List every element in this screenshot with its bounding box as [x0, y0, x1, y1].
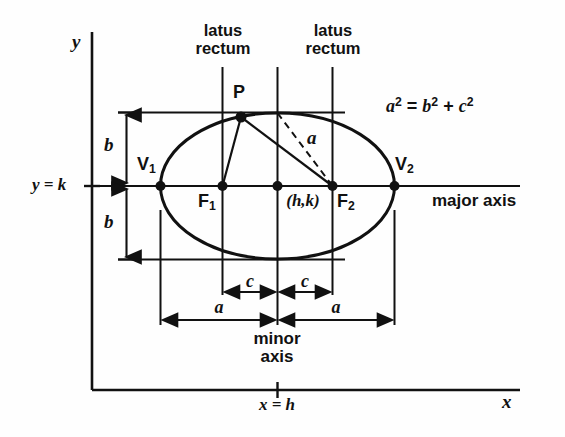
focal-radius-p-f2	[241, 117, 333, 186]
x-equals-h-text: x = h	[259, 395, 295, 414]
vertex-1-point	[156, 181, 166, 191]
vertex-2-label: V2	[395, 155, 414, 177]
focus-2-subscript: 2	[348, 199, 355, 213]
focus-1-letter: F	[198, 191, 209, 211]
center-point	[273, 181, 283, 191]
focal-distance-left-label: c	[246, 272, 254, 291]
equation-a: a	[386, 96, 395, 116]
latus-rectum-left-line1: latus	[195, 22, 250, 40]
vertex-1-subscript: 1	[149, 162, 156, 176]
radius-a-label: a	[307, 128, 317, 149]
diagram-canvas	[0, 0, 565, 437]
semi-major-right-label: a	[332, 298, 341, 317]
equation-b: b	[422, 96, 431, 116]
focus-1-label: F1	[198, 192, 216, 214]
y-axis-label: y	[72, 32, 80, 53]
semi-minor-top-label: b	[104, 135, 114, 156]
ellipse-relation-equation: a2=b2+c2	[386, 96, 473, 116]
equation-equals: =	[407, 96, 418, 116]
vertex-2-subscript: 2	[407, 162, 414, 176]
equation-a-exponent: 2	[395, 95, 402, 109]
point-p-label: P	[233, 83, 245, 102]
point-p-marker	[236, 112, 247, 123]
y-equals-k-text: y = k	[32, 175, 66, 194]
focal-distance-right-label: c	[301, 272, 309, 291]
latus-rectum-left-line2: rectum	[195, 40, 250, 58]
center-label: (h,k)	[286, 192, 320, 210]
minor-axis-line2: axis	[253, 348, 300, 366]
focus-2-letter: F	[337, 191, 348, 211]
y-equals-k-label: y = k	[32, 176, 66, 194]
focus-2-point	[328, 181, 338, 191]
latus-rectum-label-right: latus rectum	[305, 22, 360, 58]
vertex-2-letter: V	[395, 154, 407, 174]
equation-plus: +	[443, 96, 454, 116]
ellipse-diagram-figure: y x y = k x = h latus rectum latus rectu…	[0, 0, 565, 437]
vertex-1-letter: V	[137, 154, 149, 174]
equation-c: c	[459, 96, 467, 116]
semi-minor-bottom-label: b	[104, 212, 114, 233]
equation-c-exponent: 2	[467, 95, 474, 109]
vertex-1-label: V1	[137, 155, 156, 177]
focus-1-subscript: 1	[209, 199, 216, 213]
equation-b-exponent: 2	[431, 95, 438, 109]
x-equals-h-label: x = h	[259, 396, 295, 414]
latus-rectum-label-left: latus rectum	[195, 22, 250, 58]
latus-rectum-right-line2: rectum	[305, 40, 360, 58]
minor-axis-label: minor axis	[253, 330, 300, 367]
vertex-2-point	[390, 181, 400, 191]
semi-major-left-label: a	[215, 298, 224, 317]
focus-1-point	[218, 181, 228, 191]
minor-axis-line1: minor	[253, 330, 300, 348]
focal-radius-p-f1	[223, 117, 242, 186]
x-axis-label: x	[502, 392, 512, 413]
major-axis-label: major axis	[432, 192, 516, 210]
focus-2-label: F2	[337, 192, 355, 214]
latus-rectum-right-line1: latus	[305, 22, 360, 40]
